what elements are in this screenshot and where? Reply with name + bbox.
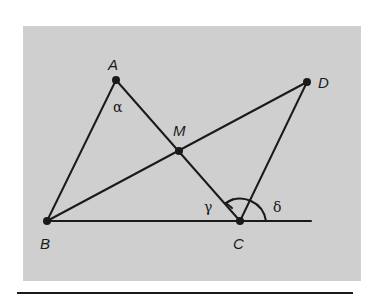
point-c (236, 217, 244, 225)
label-b: B (40, 235, 50, 252)
label-c: C (233, 235, 244, 252)
point-m (175, 147, 183, 155)
label-m: M (173, 122, 186, 139)
angle-label-gamma: γ (204, 199, 212, 215)
angle-label-alpha: α (113, 99, 123, 115)
point-a (112, 76, 120, 84)
figure-panel (23, 26, 361, 281)
point-b (43, 217, 51, 225)
angle-label-delta: δ (273, 199, 281, 215)
geometry-figure: A B C D M α γ δ (0, 0, 378, 296)
label-a: A (107, 56, 118, 73)
bottom-rule (17, 292, 353, 294)
point-d (303, 78, 311, 86)
label-d: D (318, 74, 329, 91)
